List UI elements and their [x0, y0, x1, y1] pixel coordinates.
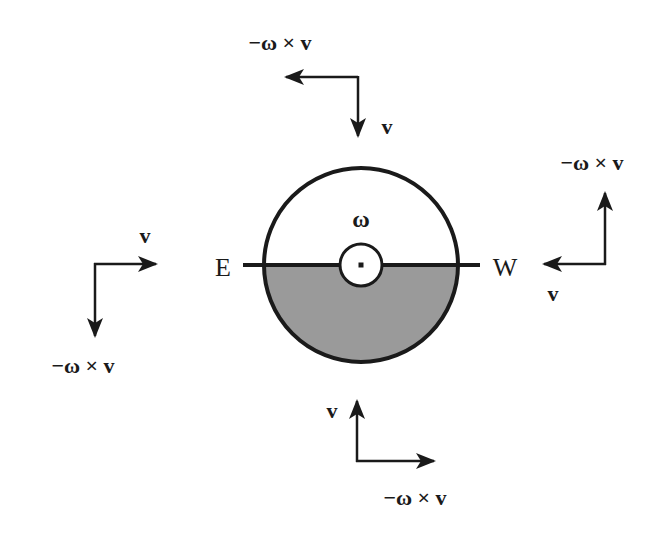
velocity-label: v	[382, 114, 393, 139]
coriolis-label: −ω × v	[248, 30, 311, 55]
arrow-pair-left: v −ω × v	[51, 223, 156, 378]
arrow-pair-bottom: v −ω × v	[327, 398, 447, 510]
arrow-pair-top: −ω × v v	[248, 30, 392, 139]
omega-label: ω	[352, 206, 370, 232]
axis-out-of-page-dot-icon	[359, 263, 364, 268]
west-label: W	[493, 253, 518, 282]
coriolis-label: −ω × v	[51, 353, 114, 378]
velocity-label: v	[327, 398, 338, 423]
coriolis-diagram: ω E W −ω × v v v −ω × v −ω × v v v −ω × …	[0, 0, 667, 536]
velocity-label: v	[548, 281, 559, 306]
arrow-pair-right: −ω × v v	[544, 150, 624, 306]
east-label: E	[215, 253, 231, 282]
coriolis-label: −ω × v	[383, 485, 446, 510]
rotating-disk	[243, 168, 480, 362]
coriolis-label: −ω × v	[560, 150, 623, 175]
velocity-label: v	[140, 223, 151, 248]
